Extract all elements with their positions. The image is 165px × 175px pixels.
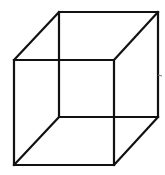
necker-cube-diagram [0,0,165,175]
edge-bottom-right [114,117,158,165]
edge-top-left [14,12,59,60]
edge-top-right [114,12,158,60]
edge-bottom-left [14,117,59,165]
